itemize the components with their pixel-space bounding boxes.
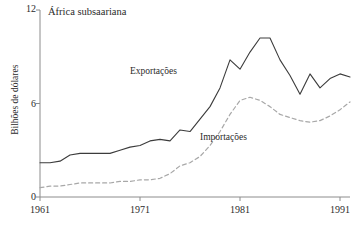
chart-plot-area bbox=[0, 0, 356, 227]
y-tick-label: 6 bbox=[16, 98, 36, 109]
chart-title: África subsaariana bbox=[48, 7, 126, 18]
series-label-exports: Exportações bbox=[130, 67, 177, 77]
x-tick-label: 1961 bbox=[20, 204, 60, 215]
x-tick-label: 1991 bbox=[320, 204, 356, 215]
series-line-imports bbox=[40, 97, 350, 187]
series-line-exports bbox=[40, 38, 350, 163]
x-tick-label: 1981 bbox=[220, 204, 260, 215]
series-label-imports: Importações bbox=[200, 133, 247, 143]
y-tick-label: 0 bbox=[16, 191, 36, 202]
chart-container: África subsaariana Exportações Importaçõ… bbox=[0, 0, 356, 227]
x-tick-label: 1971 bbox=[120, 204, 160, 215]
y-tick-label: 12 bbox=[16, 3, 36, 14]
